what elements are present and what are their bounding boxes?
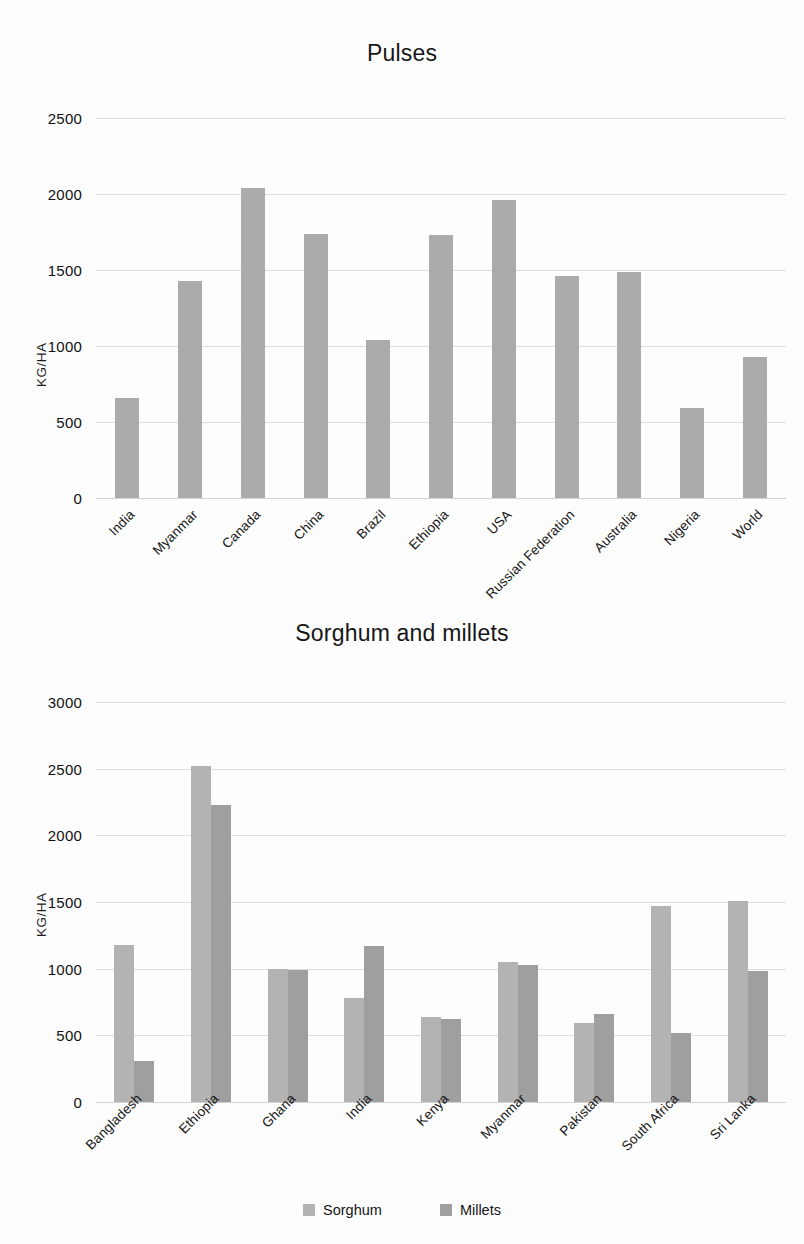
bar-group[interactable]: [556, 702, 633, 1102]
x-tick-label: Bangladesh: [83, 1091, 145, 1153]
x-label-cell: Ethiopia: [410, 505, 473, 615]
bar[interactable]: [191, 766, 211, 1102]
bar-group[interactable]: [347, 118, 410, 498]
x-label-cell: India: [96, 505, 159, 615]
x-label-cell: Ghana: [249, 1089, 326, 1199]
x-label-cell: World: [723, 505, 786, 615]
x-label-cell: Nigeria: [661, 505, 724, 615]
bar[interactable]: [555, 276, 579, 498]
bar[interactable]: [680, 408, 704, 498]
x-tick-label: Sri Lanka: [707, 1091, 759, 1143]
x-axis-labels: IndiaMyanmarCanadaChinaBrazilEthiopiaUSA…: [96, 505, 786, 615]
x-tick-label: Ghana: [259, 1091, 299, 1131]
legend-label: Sorghum: [323, 1202, 382, 1218]
bar[interactable]: [178, 281, 202, 498]
legend-item[interactable]: Sorghum: [303, 1202, 382, 1218]
x-label-cell: Myanmar: [159, 505, 222, 615]
x-tick-label: India: [106, 507, 138, 539]
bar-group[interactable]: [96, 702, 173, 1102]
bar-group[interactable]: [249, 702, 326, 1102]
bar-group[interactable]: [284, 118, 347, 498]
bar-group[interactable]: [221, 118, 284, 498]
y-tick-label: 2000: [48, 827, 82, 844]
bar[interactable]: [114, 945, 134, 1102]
bar[interactable]: [268, 969, 288, 1102]
chart-title: Pulses: [0, 40, 804, 67]
y-axis-ticks: 05001000150020002500: [0, 67, 90, 587]
bar[interactable]: [364, 946, 384, 1102]
bar-group[interactable]: [159, 118, 222, 498]
x-tick-label: Nigeria: [661, 507, 702, 548]
bar[interactable]: [241, 188, 265, 498]
bar[interactable]: [344, 998, 364, 1102]
y-tick-label: 2500: [48, 760, 82, 777]
chart-legend: SorghumMillets: [0, 1202, 804, 1218]
x-tick-label: Australia: [591, 507, 639, 555]
bar-group[interactable]: [173, 702, 250, 1102]
bar[interactable]: [728, 901, 748, 1102]
bar-group[interactable]: [598, 118, 661, 498]
x-tick-label: World: [730, 507, 766, 543]
x-tick-label: Canada: [219, 507, 263, 551]
x-tick-label: USA: [484, 507, 514, 537]
x-label-cell: Russian Federation: [535, 505, 598, 615]
bar[interactable]: [366, 340, 390, 498]
bar[interactable]: [748, 971, 768, 1102]
bar[interactable]: [429, 235, 453, 498]
bar-group[interactable]: [633, 702, 710, 1102]
y-tick-label: 2500: [48, 110, 82, 127]
bar[interactable]: [115, 398, 139, 498]
plot-area: KG/HA 05001000150020002500 IndiaMyanmarC…: [0, 67, 804, 587]
x-label-cell: Canada: [221, 505, 284, 615]
bar[interactable]: [651, 906, 671, 1102]
bar-group[interactable]: [661, 118, 724, 498]
y-tick-label: 500: [56, 1027, 82, 1044]
bar[interactable]: [211, 805, 231, 1102]
bar-group[interactable]: [96, 118, 159, 498]
bar[interactable]: [492, 200, 516, 498]
x-axis-labels: BangladeshEthiopiaGhanaIndiaKenyaMyanmar…: [96, 1089, 786, 1199]
x-label-cell: Kenya: [403, 1089, 480, 1199]
x-tick-label: Ethiopia: [176, 1091, 222, 1137]
y-axis-ticks: 050010001500200025003000: [0, 647, 90, 1227]
bar[interactable]: [288, 970, 308, 1102]
bar-group[interactable]: [326, 702, 403, 1102]
plot-area: KG/HA 050010001500200025003000 Banglades…: [0, 647, 804, 1227]
bar-group[interactable]: [723, 118, 786, 498]
bars-container: [96, 702, 786, 1102]
chart-page: Pulses KG/HA 05001000150020002500 IndiaM…: [0, 0, 804, 1244]
bar[interactable]: [304, 234, 328, 498]
y-tick-label: 2000: [48, 186, 82, 203]
x-label-cell: Brazil: [347, 505, 410, 615]
x-label-cell: China: [284, 505, 347, 615]
legend-item[interactable]: Millets: [440, 1202, 501, 1218]
bar-group[interactable]: [479, 702, 556, 1102]
bar[interactable]: [518, 965, 538, 1102]
y-tick-label: 1000: [48, 338, 82, 355]
x-tick-label: India: [343, 1091, 375, 1123]
bar-group[interactable]: [535, 118, 598, 498]
x-label-cell: South Africa: [633, 1089, 710, 1199]
y-tick-label: 1000: [48, 960, 82, 977]
bar-group[interactable]: [709, 702, 786, 1102]
x-tick-label: Pakistan: [557, 1091, 605, 1139]
x-label-cell: Sri Lanka: [709, 1089, 786, 1199]
bar-group[interactable]: [410, 118, 473, 498]
y-tick-label: 3000: [48, 694, 82, 711]
x-label-cell: Bangladesh: [96, 1089, 173, 1199]
y-tick-label: 1500: [48, 262, 82, 279]
bar[interactable]: [498, 962, 518, 1102]
y-tick-label: 1500: [48, 894, 82, 911]
x-tick-label: Brazil: [354, 507, 389, 542]
bar-group[interactable]: [403, 702, 480, 1102]
chart-panel-pulses: Pulses KG/HA 05001000150020002500 IndiaM…: [0, 40, 804, 600]
x-label-cell: Myanmar: [479, 1089, 556, 1199]
bar[interactable]: [617, 272, 641, 498]
x-tick-label: Myanmar: [477, 1091, 528, 1142]
legend-swatch-icon: [303, 1204, 315, 1216]
bar[interactable]: [743, 357, 767, 498]
bar-group[interactable]: [472, 118, 535, 498]
x-tick-label: Ethiopia: [406, 507, 452, 553]
legend-swatch-icon: [440, 1204, 452, 1216]
gridline: [96, 498, 786, 499]
